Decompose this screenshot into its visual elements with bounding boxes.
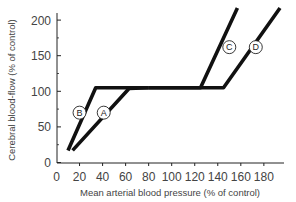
curves bbox=[68, 8, 280, 150]
x-tick-label: 140 bbox=[208, 170, 228, 184]
x-tick-label: 160 bbox=[231, 170, 251, 184]
curve-a bbox=[73, 88, 149, 151]
y-axis-title: Cerebral blood-flow (% of control) bbox=[6, 19, 17, 161]
svg-text:D: D bbox=[253, 42, 260, 52]
x-tick-label: 40 bbox=[96, 170, 110, 184]
x-tick-label: 0 bbox=[53, 170, 60, 184]
y-tick-label: 150 bbox=[31, 49, 51, 63]
x-tick-label: 100 bbox=[162, 170, 182, 184]
label-b: B bbox=[73, 106, 86, 119]
x-axis: 020406080100120140160180 bbox=[53, 163, 284, 184]
x-tick-label: 20 bbox=[73, 170, 87, 184]
y-tick-label: 200 bbox=[31, 14, 51, 28]
x-tick-label: 180 bbox=[254, 170, 274, 184]
x-axis-title: Mean arterial blood pressure (% of contr… bbox=[80, 187, 260, 198]
y-tick-label: 50 bbox=[38, 120, 52, 134]
curve-labels: ABCD bbox=[73, 41, 262, 120]
svg-text:B: B bbox=[77, 108, 83, 118]
svg-text:C: C bbox=[226, 42, 233, 52]
svg-text:A: A bbox=[101, 108, 107, 118]
label-a: A bbox=[97, 106, 110, 119]
label-c: C bbox=[223, 41, 236, 54]
y-axis: 050100150200 bbox=[31, 13, 61, 170]
x-tick-label: 80 bbox=[142, 170, 156, 184]
x-tick-label: 120 bbox=[185, 170, 205, 184]
y-tick-label: 100 bbox=[31, 85, 51, 99]
y-tick-label: 0 bbox=[44, 156, 51, 170]
autoregulation-chart: 050100150200 020406080100120140160180 Ce… bbox=[0, 0, 296, 202]
x-tick-label: 60 bbox=[119, 170, 133, 184]
label-d: D bbox=[249, 41, 262, 54]
